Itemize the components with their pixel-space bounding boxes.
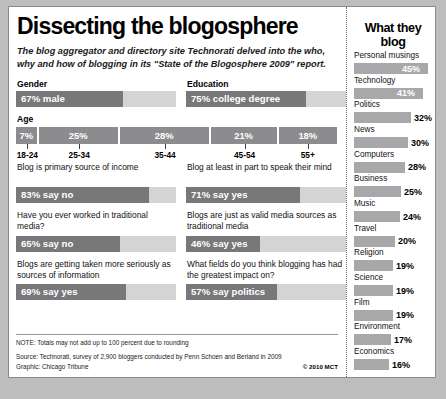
sidebar-topic-value: 24% — [403, 212, 421, 222]
infographic-card: Dissecting the blogosphere The blog aggr… — [8, 6, 436, 378]
sidebar-topic-bar — [354, 137, 408, 148]
age-range-label: 45-54 — [211, 150, 279, 160]
question-label: Blogs are just as valid media sources as… — [187, 210, 346, 232]
sidebar-topic-item: Religion19% — [354, 248, 432, 272]
sidebar-topic-item: Science19% — [354, 273, 432, 297]
question-block: Have you ever worked in traditional medi… — [16, 210, 176, 251]
sidebar-topic-label: Environment — [354, 322, 432, 333]
sidebar-topic-value: 19% — [396, 310, 414, 320]
sidebar-topic-bar — [354, 334, 391, 345]
sidebar-topic-value: 45% — [402, 64, 420, 74]
sidebar-topic-bar-row: 20% — [354, 235, 432, 247]
sidebar-topic-label: Personal musings — [354, 51, 432, 62]
question-label: Blog at least in part to speak their min… — [187, 162, 346, 184]
sidebar-topic-label: Technology — [354, 76, 432, 87]
age-segment: 25% — [39, 127, 120, 144]
footer-divider — [16, 334, 338, 335]
question-block: Blog is primary source of income83% say … — [16, 162, 176, 203]
gender-block: Gender 67% male — [16, 79, 176, 108]
sidebar-topic-bar-row: 28% — [354, 161, 432, 173]
sidebar-topic-bar — [354, 186, 401, 197]
gender-bar: 67% male — [16, 91, 176, 107]
education-bar: 75% college degree — [186, 91, 346, 107]
question-grid: Blog is primary source of income83% say … — [16, 162, 346, 300]
question-bar-value: 83% say no — [21, 187, 73, 203]
sidebar-topic-label: News — [354, 125, 432, 136]
sidebar-topic-bar-row: 45% — [354, 63, 432, 75]
question-bar-value: 57% say politics — [191, 284, 265, 300]
sidebar-topic-bar — [354, 211, 400, 222]
question-row: Blog is primary source of income83% say … — [16, 162, 346, 203]
sidebar-topic-bar — [354, 162, 405, 173]
sidebar-topic-bar — [354, 310, 393, 321]
question-bar-value: 71% say yes — [191, 187, 248, 203]
sidebar-topic-value: 20% — [398, 236, 416, 246]
question-block: Blog at least in part to speak their min… — [186, 162, 346, 203]
age-segment-value: 21% — [211, 127, 277, 144]
sidebar-topic-label: Film — [354, 298, 432, 309]
sidebar-topic-bar — [354, 236, 395, 247]
graphic-line: Graphic: Chicago Tribune — [16, 362, 282, 371]
question-bar: 69% say yes — [16, 284, 176, 300]
sidebar-topic-value: 17% — [394, 335, 412, 345]
sidebar-topic-value: 32% — [414, 113, 432, 123]
question-bar-value: 46% say yes — [191, 236, 248, 252]
question-block: Blogs are just as valid media sources as… — [186, 210, 346, 251]
age-block: Age 7%25%28%21%18% 18-2425-3435-4445-545… — [16, 114, 337, 160]
sidebar-topic-value: 19% — [396, 286, 414, 296]
sidebar-topic-item: Environment17% — [354, 322, 432, 346]
gender-label: Gender — [17, 79, 176, 90]
footer-source-text: Source: Technorati, survey of 2,900 blog… — [16, 352, 282, 371]
sidebar-topic-item: Personal musings45% — [354, 51, 432, 75]
main-content-column: Dissecting the blogosphere The blog aggr… — [9, 7, 346, 377]
sidebar-topic-item: Music24% — [354, 199, 432, 223]
education-block: Education 75% college degree — [186, 79, 346, 108]
age-range-label: 18-24 — [16, 150, 39, 160]
footnote-note: NOTE: Totals may not add up to 100 perce… — [16, 339, 338, 346]
question-bar: 57% say politics — [186, 284, 346, 300]
sidebar-topic-item: Politics32% — [354, 100, 432, 124]
age-range-label: 35-44 — [120, 150, 211, 160]
age-tick — [39, 144, 120, 150]
sidebar-topic-value: 30% — [411, 138, 429, 148]
sidebar-topic-label: Business — [354, 174, 432, 185]
sidebar-topic-label: Religion — [354, 248, 432, 259]
question-bar-value: 65% say no — [21, 236, 73, 252]
sidebar-topic-bar-row: 19% — [354, 285, 432, 297]
age-segment: 18% — [279, 127, 337, 144]
sidebar-topic-bar-row: 16% — [354, 359, 432, 371]
footer: NOTE: Totals may not add up to 100 perce… — [16, 334, 338, 371]
age-segment-value: 7% — [16, 127, 37, 144]
age-tick — [16, 144, 39, 150]
age-range-labels: 18-2425-3435-4445-5455+ — [16, 150, 337, 160]
source-line: Source: Technorati, survey of 2,900 blog… — [16, 352, 282, 361]
age-tick — [211, 144, 279, 150]
education-bar-value: 75% college degree — [191, 91, 280, 107]
sidebar-topic-bar-row: 19% — [354, 260, 432, 272]
question-row: Have you ever worked in traditional medi… — [16, 210, 346, 251]
sidebar-topic-item: Computers28% — [354, 150, 432, 174]
age-segment-value: 18% — [279, 127, 337, 144]
sidebar-topic-label: Science — [354, 273, 432, 284]
age-tick — [120, 144, 211, 150]
question-bar: 65% say no — [16, 236, 176, 252]
question-block: What fields do you think blogging has ha… — [186, 259, 346, 300]
sidebar-topic-label: Music — [354, 199, 432, 210]
question-row: Blogs are getting taken more seriously a… — [16, 259, 346, 300]
subtitle: The blog aggregator and directory site T… — [17, 45, 335, 69]
sidebar-topic-list: Personal musings45%Technology41%Politics… — [354, 51, 432, 371]
sidebar-topic-bar — [354, 260, 393, 271]
gender-education-row: Gender 67% male Education 75% college de… — [16, 79, 346, 108]
sidebar-topic-bar-row: 24% — [354, 211, 432, 223]
sidebar-topic-bar-row: 19% — [354, 309, 432, 321]
sidebar-topic-item: Travel20% — [354, 224, 432, 248]
sidebar-topic-item: Technology41% — [354, 76, 432, 100]
question-label: Blogs are getting taken more seriously a… — [17, 259, 176, 281]
sidebar-topic-label: Travel — [354, 224, 432, 235]
sidebar-topic-bar-row: 41% — [354, 87, 432, 99]
age-segment: 7% — [16, 127, 39, 144]
sidebar-topic-bar-row: 25% — [354, 186, 432, 198]
question-bar: 46% say yes — [186, 236, 346, 252]
copyright-credit: © 2010 MCT — [303, 363, 338, 371]
gender-bar-value: 67% male — [21, 91, 65, 107]
